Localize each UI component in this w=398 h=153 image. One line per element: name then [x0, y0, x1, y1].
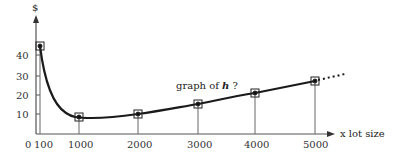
- y-tick-40: 40: [16, 50, 29, 61]
- x-tick-100: 100: [34, 139, 53, 150]
- curve-extension-dotted: [318, 74, 345, 80]
- y-tick-20: 20: [16, 90, 29, 101]
- graph-annotation: graph of h ?: [176, 80, 238, 91]
- x-axis-arrow-icon: [327, 131, 335, 137]
- x-axis-label: x lot size: [340, 128, 385, 139]
- chart: $ x lot size 40 30 20 10 0 100 1000 2000…: [0, 0, 398, 153]
- x-tick-3000: 3000: [187, 139, 212, 150]
- x-tick-origin: 0: [25, 139, 31, 150]
- annotation-variable: h: [222, 80, 229, 91]
- x-tick-4000: 4000: [244, 139, 269, 150]
- y-tick-30: 30: [16, 71, 29, 82]
- annotation-suffix: ?: [229, 80, 238, 91]
- y-tick-10: 10: [16, 109, 29, 120]
- x-ticks: 0 100 1000 2000 3000 4000 5000: [25, 139, 328, 150]
- y-axis-arrow-icon: [33, 15, 39, 23]
- annotation-prefix: graph of: [176, 80, 222, 91]
- x-tick-1000: 1000: [68, 139, 93, 150]
- x-tick-5000: 5000: [303, 139, 328, 150]
- y-axis-label: $: [32, 2, 38, 13]
- x-tick-2000: 2000: [127, 139, 152, 150]
